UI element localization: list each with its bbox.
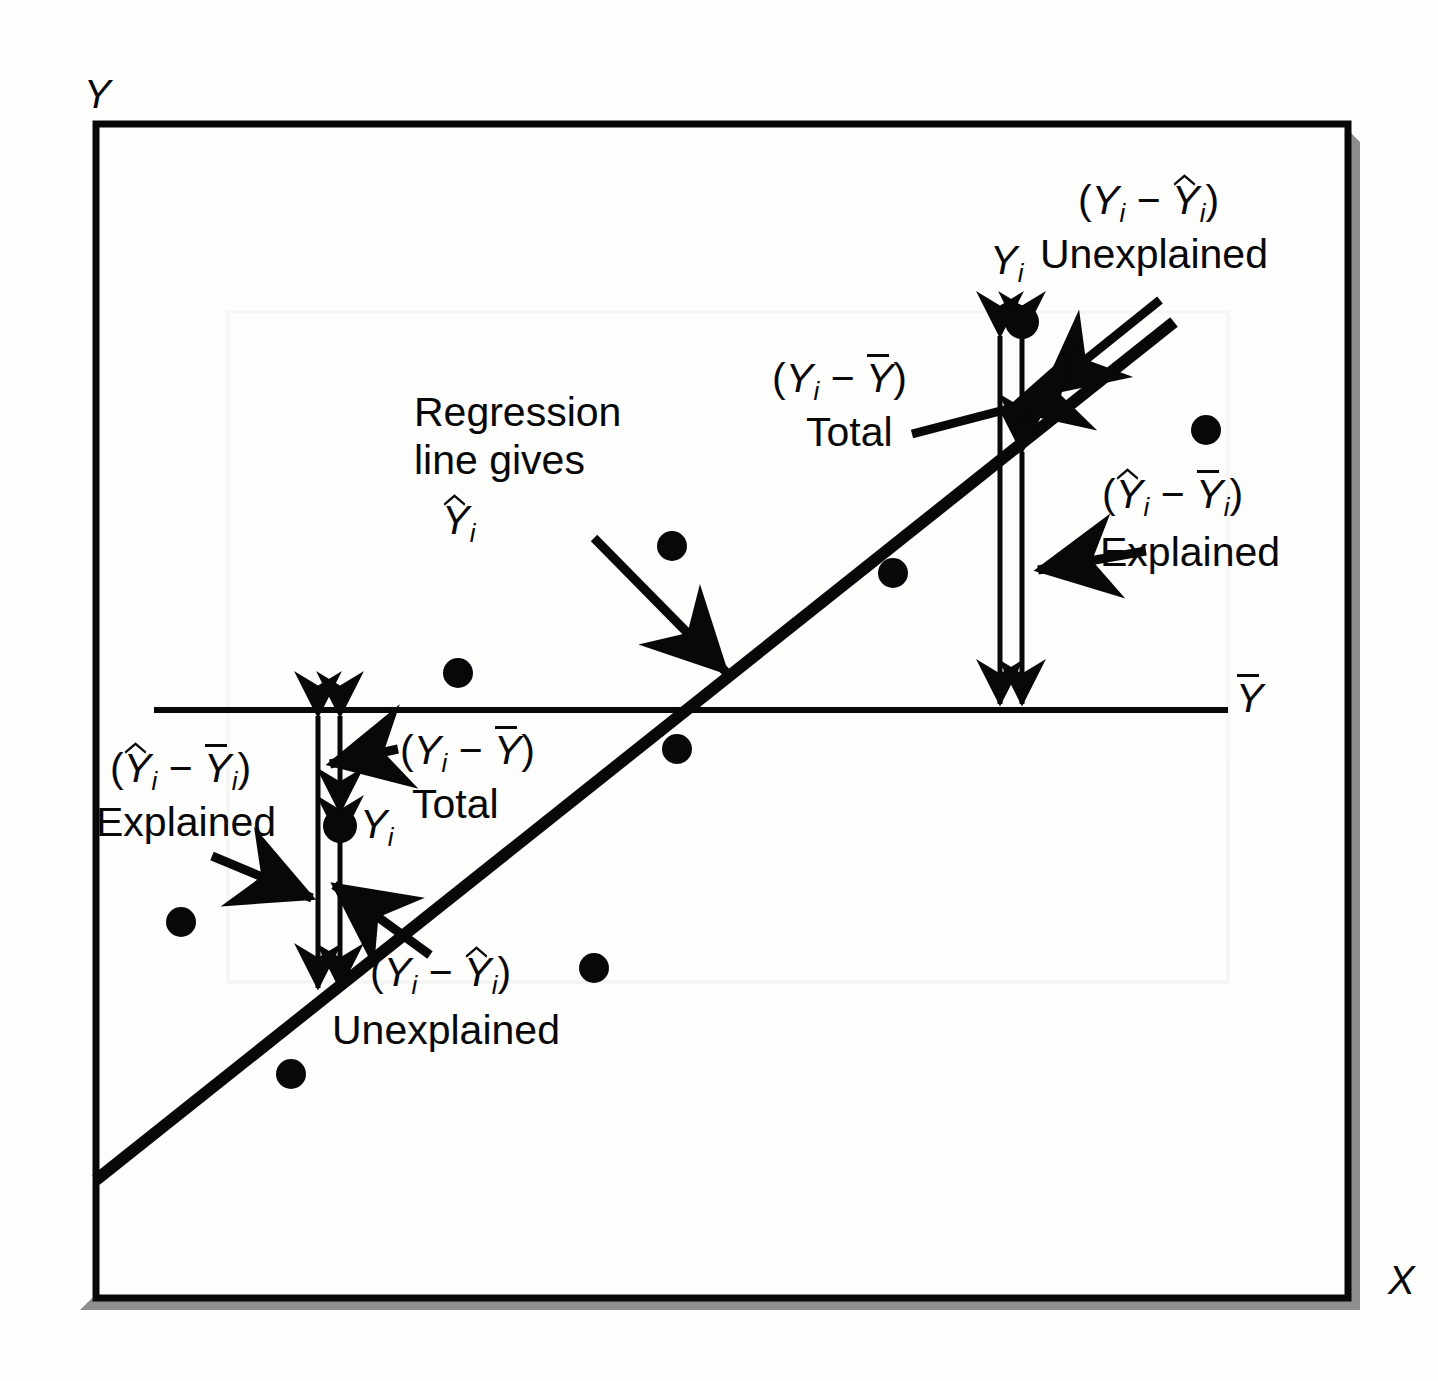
y-axis-label: Y [84, 72, 111, 117]
point-label-upper: Yi [990, 238, 1024, 288]
data-point [579, 953, 609, 983]
total-word-left: Total [412, 782, 499, 828]
data-point [166, 907, 196, 937]
figure-canvas [0, 0, 1438, 1381]
data-point [662, 734, 692, 764]
x-axis-label: X [1388, 1258, 1415, 1303]
data-point [1191, 415, 1221, 445]
unexplained-word-left: Unexplained [332, 1008, 560, 1054]
unexplained-formula-right: (Yi − Yi) [1078, 178, 1219, 228]
data-point [443, 658, 473, 688]
regression-decomposition-figure: Y X Y (Yi − Yi) Unexplained Yi (Yi − Y) … [0, 0, 1438, 1381]
data-point [276, 1059, 306, 1089]
unexplained-formula-left: (Yi − Yi) [370, 950, 511, 1000]
explained-formula-left: (Yi − Yi) [110, 746, 251, 796]
mean-line-label: Y [1236, 676, 1263, 722]
data-point [657, 531, 687, 561]
total-formula-right: (Yi − Y) [772, 356, 907, 406]
regression-note-symbol: Yi [442, 498, 476, 548]
point-label-lower: Yi [360, 802, 394, 852]
explained-formula-right: (Yi − Yi) [1102, 472, 1243, 522]
data-point [878, 558, 908, 588]
total-word-right: Total [806, 410, 893, 456]
unexplained-word-right: Unexplained [1040, 232, 1268, 278]
explained-word-right: Explained [1100, 530, 1280, 576]
explained-word-left: Explained [96, 800, 276, 846]
data-point-highlight-lower [323, 809, 357, 843]
total-formula-left: (Yi − Y) [400, 728, 535, 778]
data-point-highlight-upper [1005, 305, 1039, 339]
regression-note-line1: Regression [414, 390, 621, 436]
regression-note-line2: line gives [414, 438, 585, 484]
